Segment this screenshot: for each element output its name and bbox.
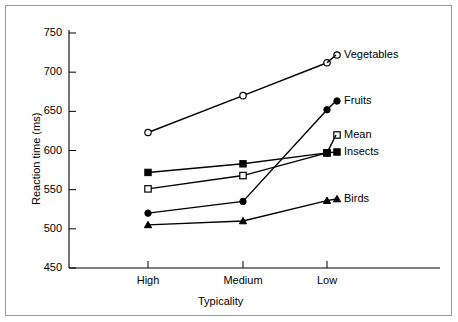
data-point-marker <box>240 92 246 98</box>
x-tick-label: High <box>113 274 183 286</box>
series-label-mean: Mean <box>344 128 372 140</box>
series-label-fruits: Fruits <box>344 94 372 106</box>
x-axis-title: Typicality <box>198 295 243 307</box>
data-point-marker <box>145 210 151 216</box>
series-label-birds: Birds <box>344 192 369 204</box>
y-tick-label: 450 <box>28 261 62 273</box>
series-label-leaders <box>327 55 336 201</box>
y-tick-label: 600 <box>28 144 62 156</box>
x-axis-ticks <box>148 261 327 268</box>
x-tick-label: Low <box>292 274 362 286</box>
series-label-insects: Insects <box>344 145 379 157</box>
series-endpoint-marker <box>334 98 340 104</box>
series-label-vegetables: Vegetables <box>344 48 398 60</box>
y-tick-label: 700 <box>28 65 62 77</box>
data-point-marker <box>240 172 246 178</box>
y-tick-label: 500 <box>28 222 62 234</box>
data-point-marker <box>145 186 151 192</box>
y-axis-ticks <box>69 33 76 268</box>
chart-figure: Reaction time (ms) Typicality 4505005506… <box>0 0 458 322</box>
data-point-marker <box>145 169 151 175</box>
data-point-marker <box>145 129 151 135</box>
y-tick-label: 750 <box>28 26 62 38</box>
y-tick-label: 650 <box>28 104 62 116</box>
x-tick-label: Medium <box>208 274 278 286</box>
series-lines <box>148 63 327 225</box>
series-markers <box>144 52 340 228</box>
data-point-marker <box>240 198 246 204</box>
y-tick-label: 550 <box>28 183 62 195</box>
series-endpoint-marker <box>334 52 340 58</box>
data-point-marker <box>240 161 246 167</box>
